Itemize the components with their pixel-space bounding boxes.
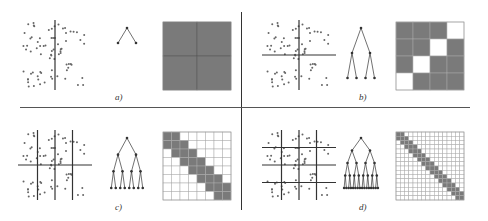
horizontal-divider (20, 107, 470, 108)
panel-a: a) (0, 0, 241, 107)
panel-label: b) (359, 92, 367, 102)
cluster-tree (102, 25, 152, 85)
scatter-plot (264, 130, 334, 200)
block-matrix (396, 132, 464, 200)
scatter-plot (20, 20, 90, 90)
cluster-tree (102, 135, 152, 195)
block-matrix (396, 22, 464, 90)
scatter-plot (264, 20, 334, 90)
block-matrix (163, 22, 231, 90)
panel-label: d) (359, 202, 367, 212)
panel-label: c) (115, 202, 122, 212)
panel-c: c) (0, 110, 241, 217)
vertical-divider (241, 12, 242, 210)
panel-d: d) (244, 110, 485, 217)
scatter-plot (20, 130, 90, 200)
block-matrix (163, 132, 231, 200)
cluster-tree (336, 135, 386, 195)
panel-label: a) (115, 92, 123, 102)
panel-b: b) (244, 0, 485, 107)
cluster-tree (336, 25, 386, 85)
